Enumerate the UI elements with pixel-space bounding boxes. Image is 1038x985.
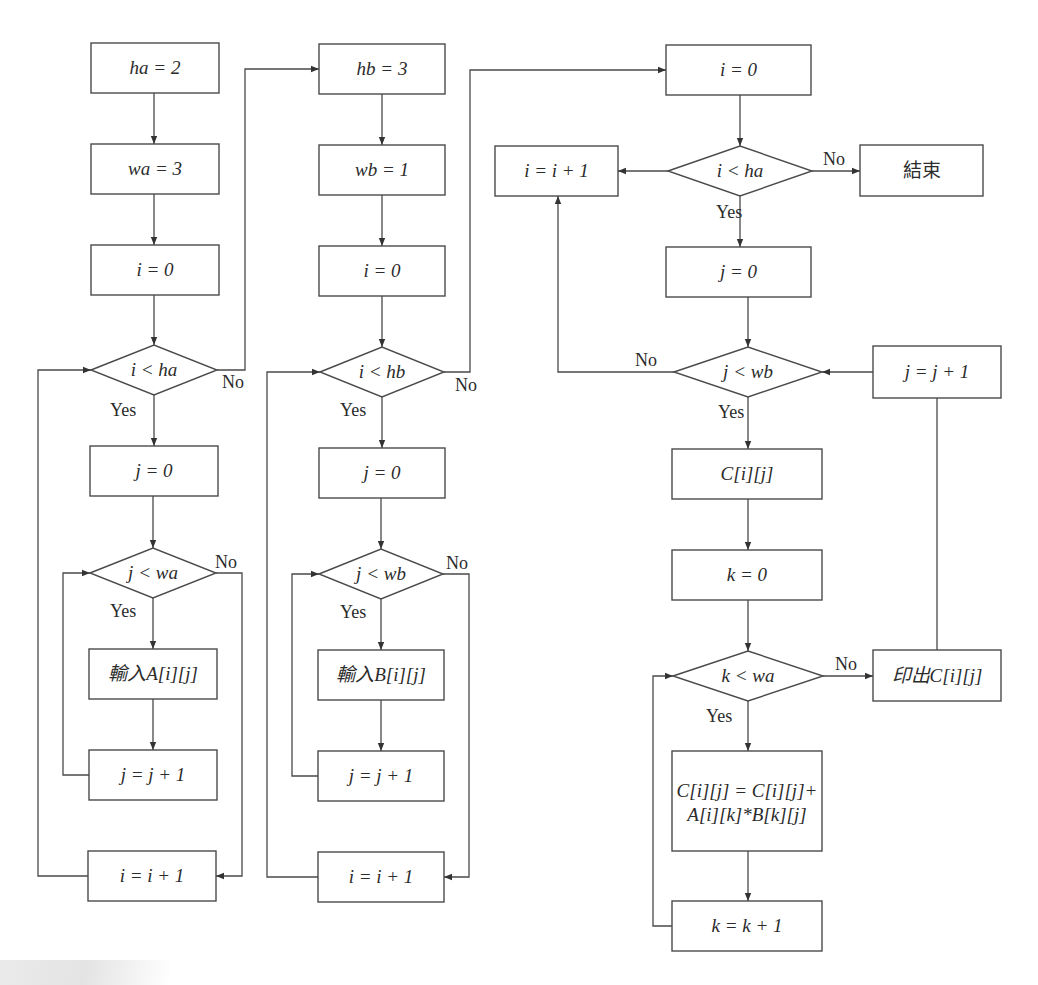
edge-label-no: No — [455, 375, 477, 395]
decision-node-c_jlt: j < wb — [674, 347, 822, 397]
process-node-b_iinc: i = i + 1 — [318, 852, 444, 902]
node-label: 結束 — [903, 160, 941, 181]
edge-label-yes: Yes — [718, 402, 744, 422]
edge-label-no: No — [835, 654, 857, 674]
decision-node-a_jlt: j < wa — [90, 548, 216, 598]
edge-b-jinc-loop — [292, 574, 319, 776]
edge-a-ilt-no — [217, 69, 319, 370]
edge-b-ilt-no — [444, 70, 666, 372]
node-label: C[i][j] — [721, 463, 774, 484]
edge-label-no: No — [635, 350, 657, 370]
edge-a-jlt-no — [216, 573, 242, 876]
decision-node-c_ilt: i < ha — [668, 146, 812, 196]
node-label: 輸入A[i][j] — [108, 663, 198, 684]
node-label: j = 0 — [132, 460, 173, 481]
process-node-c_j0: j = 0 — [666, 247, 811, 297]
scan-smudge — [0, 960, 170, 985]
edge-label-yes: Yes — [340, 400, 366, 420]
node-label: j = j + 1 — [902, 361, 970, 382]
process-node-a_in: 輸入A[i][j] — [89, 649, 217, 699]
node-label: ha = 2 — [130, 57, 181, 78]
node-label: wa = 3 — [128, 158, 182, 179]
process-node-b_wb: wb = 1 — [319, 145, 445, 195]
node-label: j = j + 1 — [118, 764, 186, 785]
process-node-b_j0: j = 0 — [319, 448, 445, 498]
edge-b-iinc-loop — [267, 372, 320, 877]
node-label: i < ha — [717, 160, 764, 181]
edge-label-no: No — [823, 149, 845, 169]
process-node-c_i0: i = 0 — [666, 45, 811, 95]
node-label: i < ha — [131, 359, 178, 380]
edge-c-jlt-no — [558, 196, 674, 372]
node-label: k = k + 1 — [711, 915, 782, 936]
node-label: k = 0 — [727, 564, 768, 585]
process-box — [672, 751, 822, 851]
process-node-c_kinc: k = k + 1 — [672, 901, 822, 951]
nodes: ha = 2wa = 3i = 0i < haj = 0j < wa輸入A[i]… — [88, 43, 1001, 951]
process-node-c_jinc: j = j + 1 — [873, 346, 1001, 398]
process-node-c_print: 印出C[i][j] — [873, 650, 1001, 701]
decision-node-b_jlt: j < wb — [319, 549, 443, 599]
process-node-b_in: 輸入B[i][j] — [318, 650, 444, 700]
edge-a-jinc-loop — [63, 573, 90, 775]
edge-label-no: No — [215, 552, 237, 572]
node-label: i < hb — [359, 361, 406, 382]
edge-label-yes: Yes — [110, 400, 136, 420]
node-label: j = 0 — [360, 462, 401, 483]
node-label: i = 0 — [136, 259, 174, 280]
process-node-a_j0: j = 0 — [90, 446, 218, 496]
process-node-a_jinc: j = j + 1 — [89, 750, 217, 800]
node-label: k < wa — [722, 665, 775, 686]
node-label: hb = 3 — [357, 58, 408, 79]
process-node-c_end: 結束 — [860, 145, 983, 196]
process-node-c_cij: C[i][j] — [672, 449, 822, 499]
process-node-b_jinc: j = j + 1 — [318, 751, 444, 801]
edge-b-jlt-no — [443, 574, 469, 877]
process-node-a_iinc: i = i + 1 — [88, 851, 216, 901]
node-label: i = i + 1 — [120, 865, 185, 886]
edge-a-iinc-loop — [38, 370, 91, 876]
node-label: i = 0 — [363, 260, 401, 281]
process-node-c_calc: C[i][j] = C[i][j]+A[i][k]*B[k][j] — [672, 751, 822, 851]
node-label-line1: C[i][j] = C[i][j]+ — [677, 780, 818, 801]
decision-node-c_klt: k < wa — [673, 651, 823, 701]
edge-label-yes: Yes — [716, 202, 742, 222]
edge-c-kinc-loop — [653, 676, 673, 926]
edge-label-no: No — [446, 553, 468, 573]
node-label-line2: A[i][k]*B[k][j] — [685, 804, 806, 825]
node-label: 印出C[i][j] — [892, 665, 983, 686]
process-node-b_hb: hb = 3 — [319, 44, 445, 94]
process-node-b_i0: i = 0 — [319, 246, 445, 296]
process-node-a_wa: wa = 3 — [91, 144, 219, 194]
edge-label-yes: Yes — [110, 601, 136, 621]
node-label: i = i + 1 — [349, 866, 414, 887]
node-label: j < wa — [125, 562, 178, 583]
node-label: j = j + 1 — [346, 765, 414, 786]
node-label: j = 0 — [717, 261, 758, 282]
node-label: wb = 1 — [355, 159, 409, 180]
node-label: j < wb — [720, 361, 773, 382]
flowchart-canvas: ha = 2wa = 3i = 0i < haj = 0j < wa輸入A[i]… — [0, 0, 1038, 985]
process-node-c_iinc: i = i + 1 — [495, 146, 618, 196]
edge-label-no: No — [222, 372, 244, 392]
edge-label-yes: Yes — [706, 706, 732, 726]
decision-node-b_ilt: i < hb — [320, 347, 444, 397]
process-node-c_k0: k = 0 — [672, 550, 822, 600]
decision-node-a_ilt: i < ha — [91, 345, 217, 395]
process-node-a_ha: ha = 2 — [91, 43, 219, 93]
node-label: i = 0 — [720, 59, 758, 80]
process-node-a_i0: i = 0 — [91, 245, 219, 295]
node-label: i = i + 1 — [524, 160, 589, 181]
node-label: 輸入B[i][j] — [336, 664, 426, 685]
node-label: j < wb — [353, 563, 406, 584]
edge-label-yes: Yes — [340, 602, 366, 622]
edge-labels: YesNoYesNoYesNoYesNoNoYesNoYesNoYes — [110, 149, 857, 726]
